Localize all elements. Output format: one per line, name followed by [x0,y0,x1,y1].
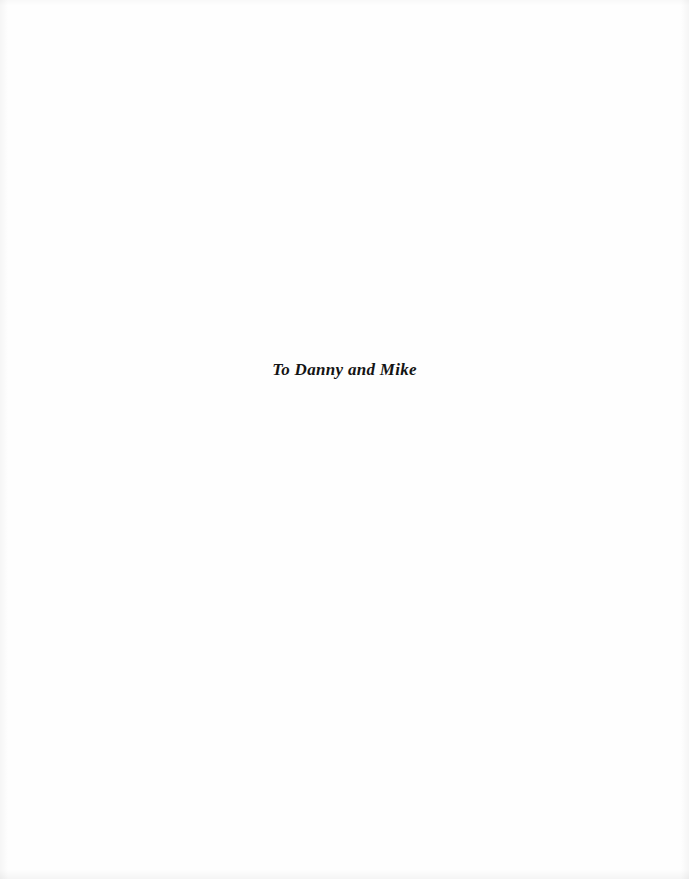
book-page: To Danny and Mike [0,0,689,879]
dedication-text: To Danny and Mike [0,360,689,380]
